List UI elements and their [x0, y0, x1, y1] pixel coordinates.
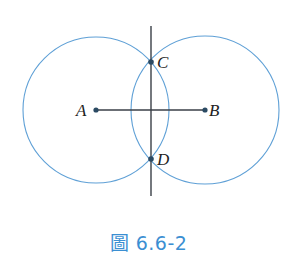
label-c: C: [157, 53, 169, 72]
point-d: [148, 156, 154, 162]
figure-caption: 圖 6.6-2: [0, 228, 297, 255]
label-d: D: [156, 150, 170, 169]
point-b: [202, 107, 207, 112]
label-a: A: [75, 101, 87, 120]
point-c: [148, 59, 154, 65]
label-b: B: [209, 101, 220, 120]
point-a: [93, 107, 98, 112]
perpendicular-bisector-diagram: A B C D: [0, 0, 297, 263]
